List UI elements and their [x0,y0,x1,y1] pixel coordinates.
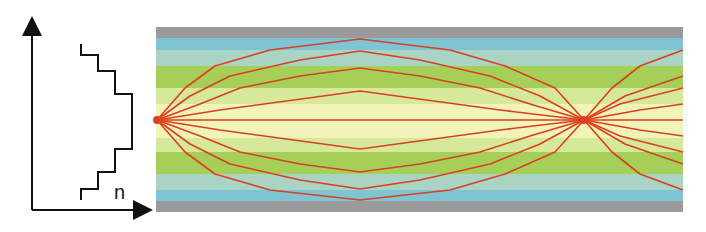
band-core-layer-3-bottom [156,152,683,174]
band-core-layer-1-bottom [156,190,683,201]
profile-axes [32,26,143,210]
band-core-layer-3-top [156,66,683,88]
focus-point [580,116,588,124]
band-core-layer-2-top [156,50,683,66]
band-core-layer-1-top [156,38,683,50]
step-index-profile [81,44,132,200]
band-core-layer-2-bottom [156,174,683,190]
light-source-point [153,116,161,124]
band-cladding-top [156,27,683,38]
refractive-index-label: n [114,181,125,203]
band-cladding-bottom [156,201,683,212]
fiber-diagram: n [0,0,706,232]
